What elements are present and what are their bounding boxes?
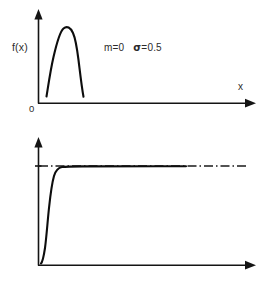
pdf-curve [47, 27, 84, 97]
figure-lognormal-pdf-cdf: f(x) 0 x m=0σ=0.5 F(x) 1 0 x [0, 0, 269, 286]
chart-pdf: f(x) 0 x m=0σ=0.5 [0, 0, 269, 143]
pdf-x-axis-arrowhead [245, 99, 256, 108]
pdf-plot-area [0, 0, 269, 143]
pdf-x-axis-label: x [238, 82, 243, 92]
parameter-mean: m=0 [104, 42, 124, 53]
cdf-plot-area [0, 130, 269, 286]
pdf-parameter-annotation: m=0σ=0.5 [104, 42, 162, 53]
cdf-x-axis-arrowhead [245, 261, 256, 270]
chart-cdf: F(x) 1 0 x [0, 130, 269, 286]
pdf-y-axis-arrowhead [34, 9, 42, 20]
cdf-y-axis-arrowhead [34, 137, 42, 148]
pdf-origin-label: 0 [29, 104, 34, 114]
cdf-curve [41, 166, 186, 263]
parameter-sigma-value: =0.5 [141, 42, 162, 53]
pdf-y-axis-label: f(x) [12, 42, 28, 53]
